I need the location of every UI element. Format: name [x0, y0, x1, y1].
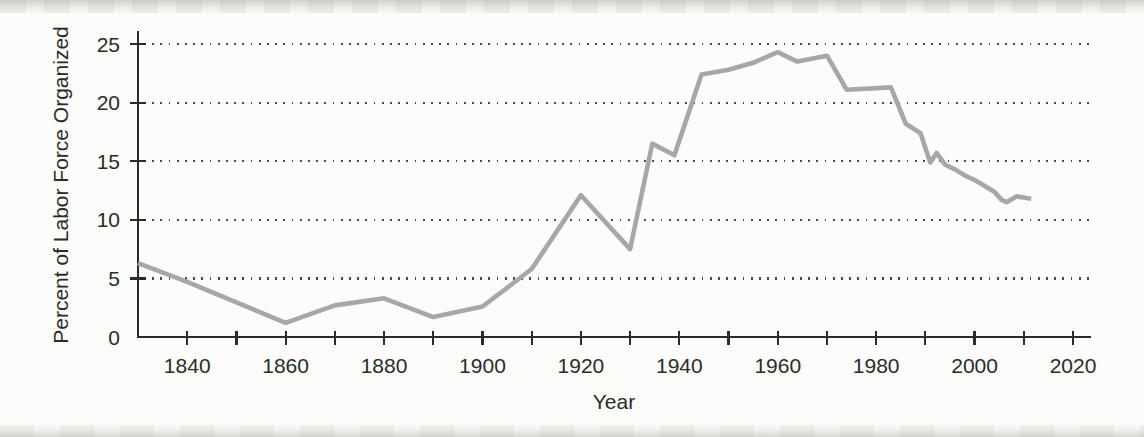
gridlines-group — [144, 44, 1092, 278]
union-membership-line-chart: 0510152025184018601880190019201940196019… — [0, 0, 1144, 437]
x-tick-label-1920: 1920 — [558, 354, 605, 377]
scanned-page: 0510152025184018601880190019201940196019… — [0, 0, 1144, 437]
x-tick-label-2020: 2020 — [1050, 354, 1097, 377]
x-tick-label-1880: 1880 — [361, 354, 408, 377]
y-tick-label-20: 20 — [97, 91, 120, 114]
x-tick-label-1980: 1980 — [853, 354, 900, 377]
y-tick-label-5: 5 — [108, 267, 120, 290]
y-tick-label-10: 10 — [97, 208, 120, 231]
x-tick-label-2000: 2000 — [951, 354, 998, 377]
y-tick-label-25: 25 — [97, 33, 120, 56]
x-tick-label-1960: 1960 — [754, 354, 801, 377]
data-series-group — [138, 52, 1031, 323]
y-tick-label-0: 0 — [108, 326, 120, 349]
labor-force-organized-line — [138, 52, 1031, 323]
axes-group — [137, 31, 1091, 338]
y-tick-label-15: 15 — [97, 150, 120, 173]
x-tick-label-1940: 1940 — [656, 354, 703, 377]
ticks-group — [130, 44, 1073, 345]
x-tick-label-1840: 1840 — [164, 354, 211, 377]
y-axis-title: Percent of Labor Force Organized — [49, 26, 72, 344]
x-tick-label-1860: 1860 — [262, 354, 309, 377]
x-tick-label-1900: 1900 — [459, 354, 506, 377]
x-axis-title: Year — [593, 390, 635, 413]
tick-labels-group: 0510152025184018601880190019201940196019… — [97, 33, 1097, 378]
